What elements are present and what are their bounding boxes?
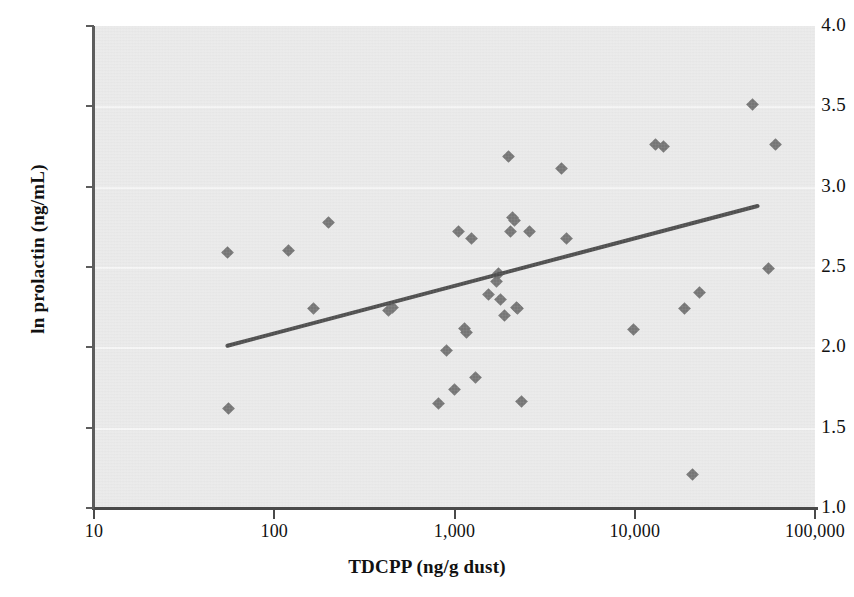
y-axis-tick-label: 2.5 [770,255,854,277]
y-axis-tick-label: 2.0 [770,335,854,357]
x-axis-tick-label: 100,000 [785,521,845,542]
y-axis-tick-label: 1.0 [770,496,854,518]
x-axis-tick [814,510,816,519]
y-axis-tick [86,186,94,188]
y-axis-tick-label: 3.0 [770,175,854,197]
trendline [94,26,815,508]
x-axis-title: TDCPP (ng/g dust) [0,556,854,578]
y-axis-tick [86,266,94,268]
x-axis-tick-label: 10,000 [609,521,660,542]
scatter-plot-figure: 1.01.52.02.53.03.54.0 101001,00010,00010… [0,0,854,597]
x-axis-tick [93,510,95,519]
y-axis-tick [86,427,94,429]
x-axis-tick-label: 10 [85,521,103,542]
y-axis-tick-label: 3.5 [770,94,854,116]
x-axis-tick [454,510,456,519]
y-axis-tick [86,25,94,27]
y-axis-tick [86,105,94,107]
plot-area [94,26,815,508]
x-axis-tick-label: 1,000 [434,521,476,542]
y-axis-tick-label: 1.5 [770,416,854,438]
x-axis-tick [634,510,636,519]
x-axis-tick [273,510,275,519]
y-axis-title: ln prolactin (ng/mL) [27,99,49,399]
y-axis-tick [86,346,94,348]
x-axis-tick-label: 100 [260,521,288,542]
y-axis-tick-label: 4.0 [770,14,854,36]
y-axis-tick [86,507,94,509]
